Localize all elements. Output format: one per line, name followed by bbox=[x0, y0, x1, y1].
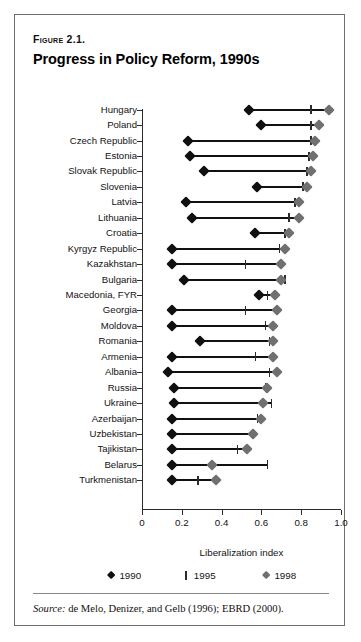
data-marker-1990 bbox=[180, 197, 191, 208]
diamond-gray-icon bbox=[262, 570, 271, 579]
divider bbox=[33, 593, 329, 594]
x-axis-tick bbox=[142, 510, 143, 515]
data-marker-1998 bbox=[210, 475, 221, 486]
data-marker-1990 bbox=[186, 212, 197, 223]
y-axis-tick bbox=[137, 110, 142, 111]
data-marker-1990 bbox=[182, 135, 193, 146]
data-marker-1998 bbox=[268, 351, 279, 362]
data-marker-1990 bbox=[256, 119, 267, 130]
x-axis-line bbox=[142, 509, 341, 510]
x-axis-tick bbox=[341, 510, 342, 515]
y-axis-tick bbox=[137, 388, 142, 389]
chart-legend: 199019951998 bbox=[33, 567, 329, 587]
data-marker-1995 bbox=[265, 321, 267, 330]
legend-label: 1998 bbox=[274, 570, 296, 581]
x-axis-tick-label: 1.0 bbox=[324, 517, 358, 528]
x-axis-tick bbox=[301, 510, 302, 515]
data-marker-1990 bbox=[184, 150, 195, 161]
page-title: Progress in Policy Reform, 1990s bbox=[33, 51, 260, 67]
data-marker-1998 bbox=[268, 320, 279, 331]
x-axis-tick-label: 0.8 bbox=[284, 517, 318, 528]
data-marker-1990 bbox=[166, 243, 177, 254]
data-marker-1990 bbox=[252, 181, 263, 192]
data-marker-1990 bbox=[166, 258, 177, 269]
data-marker-1998 bbox=[294, 212, 305, 223]
data-marker-1990 bbox=[178, 274, 189, 285]
data-row-connector bbox=[184, 279, 285, 281]
data-marker-1998 bbox=[272, 367, 283, 378]
tick-bar-icon bbox=[185, 571, 187, 580]
data-row-connector bbox=[172, 479, 216, 481]
x-axis-tick-label: 0.4 bbox=[205, 517, 239, 528]
data-marker-1995 bbox=[310, 105, 312, 114]
data-marker-1998 bbox=[206, 459, 217, 470]
data-marker-1990 bbox=[194, 336, 205, 347]
data-row-connector bbox=[190, 155, 313, 157]
data-row-connector bbox=[172, 464, 268, 466]
data-row-connector bbox=[172, 325, 273, 327]
data-marker-1998 bbox=[323, 104, 334, 115]
y-axis-tick bbox=[137, 187, 142, 188]
data-marker-1998 bbox=[242, 444, 253, 455]
data-row-connector bbox=[168, 371, 277, 373]
data-row-connector bbox=[200, 340, 274, 342]
data-marker-1990 bbox=[166, 428, 177, 439]
x-axis-tick-label: 0.6 bbox=[244, 517, 278, 528]
figure-frame: Figure 2.1. Progress in Policy Reform, 1… bbox=[14, 14, 345, 626]
y-axis-tick bbox=[137, 280, 142, 281]
y-axis-tick bbox=[137, 465, 142, 466]
y-axis-tick bbox=[137, 218, 142, 219]
x-axis-tick bbox=[261, 510, 262, 515]
data-marker-1998 bbox=[313, 119, 324, 130]
source-citation: de Melo, Denizer, and Gelb (1996); EBRD … bbox=[66, 603, 284, 614]
y-axis-tick bbox=[137, 295, 142, 296]
y-axis-tick bbox=[137, 264, 142, 265]
y-axis-tick bbox=[137, 310, 142, 311]
data-marker-1990 bbox=[162, 367, 173, 378]
data-marker-1995 bbox=[255, 352, 257, 361]
data-marker-1995 bbox=[269, 368, 271, 377]
data-marker-1990 bbox=[166, 459, 177, 470]
legend-item-1998: 1998 bbox=[263, 567, 296, 583]
data-marker-1995 bbox=[237, 445, 239, 454]
legend-label: 1995 bbox=[194, 570, 216, 581]
data-marker-1990 bbox=[166, 444, 177, 455]
data-marker-1995 bbox=[310, 121, 312, 130]
data-row-connector bbox=[257, 186, 307, 188]
data-marker-1995 bbox=[267, 291, 269, 300]
data-row-connector bbox=[174, 387, 268, 389]
y-axis-tick bbox=[137, 341, 142, 342]
y-axis-tick bbox=[137, 156, 142, 157]
y-axis-tick bbox=[137, 372, 142, 373]
data-marker-1990 bbox=[166, 475, 177, 486]
data-marker-1990 bbox=[166, 305, 177, 316]
y-axis-tick bbox=[137, 249, 142, 250]
data-marker-1990 bbox=[168, 382, 179, 393]
data-marker-1990 bbox=[254, 289, 265, 300]
diamond-black-icon bbox=[107, 570, 116, 579]
y-axis-tick bbox=[137, 141, 142, 142]
legend-label: 1990 bbox=[119, 570, 141, 581]
y-axis-tick bbox=[137, 202, 142, 203]
data-row-connector bbox=[192, 217, 299, 219]
data-marker-1995 bbox=[271, 399, 273, 408]
chart-series-layer bbox=[33, 95, 329, 509]
source-label: Source: bbox=[33, 603, 66, 614]
data-row-connector bbox=[188, 140, 315, 142]
y-axis-tick bbox=[137, 125, 142, 126]
data-row-connector bbox=[172, 418, 262, 420]
data-marker-1990 bbox=[166, 320, 177, 331]
data-marker-1995 bbox=[288, 213, 290, 222]
data-marker-1995 bbox=[245, 306, 247, 315]
x-axis-tick-label: 0 bbox=[125, 517, 159, 528]
data-marker-1998 bbox=[270, 289, 281, 300]
data-row-connector bbox=[249, 109, 329, 111]
x-axis-tick-label: 0.2 bbox=[165, 517, 199, 528]
y-axis-tick bbox=[137, 357, 142, 358]
legend-item-1995: 1995 bbox=[183, 567, 216, 583]
data-row-connector bbox=[172, 248, 285, 250]
data-row-connector bbox=[172, 356, 273, 358]
data-marker-1998 bbox=[276, 258, 287, 269]
data-row-connector bbox=[204, 170, 311, 172]
data-marker-1990 bbox=[166, 413, 177, 424]
